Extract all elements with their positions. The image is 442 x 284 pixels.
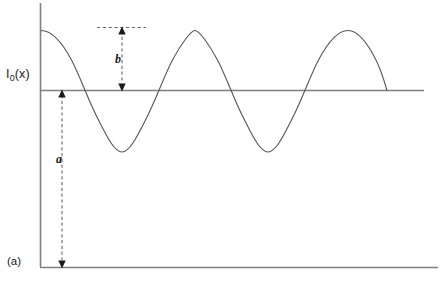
- y-axis-label-argument: (x): [15, 67, 30, 81]
- figure-drawing: [0, 0, 442, 284]
- annotation-label-b: b: [115, 53, 121, 65]
- b-arrowhead-up-icon: [118, 27, 125, 35]
- annotation-label-a: a: [56, 153, 62, 165]
- figure-panel-a: I0(x) b a (a): [0, 0, 442, 284]
- y-axis-label: I0(x): [6, 68, 30, 83]
- panel-caption: (a): [7, 256, 21, 268]
